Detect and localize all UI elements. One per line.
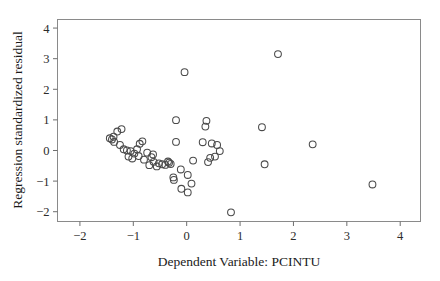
y-tick-label: 3	[43, 52, 49, 66]
x-tick-label: −1	[127, 229, 140, 243]
y-tick-label: −1	[36, 175, 49, 189]
x-axis-title: Dependent Variable: PCINTU	[158, 254, 321, 269]
y-tick-label: 0	[43, 144, 49, 158]
x-tick-label: 4	[397, 229, 404, 243]
y-tick-label: −2	[36, 205, 49, 219]
plot-area-frame	[58, 20, 421, 222]
x-tick-label: −2	[73, 229, 86, 243]
x-tick-label: 1	[237, 229, 243, 243]
y-axis-title: Regression standardized residual	[10, 31, 25, 209]
x-tick-label: 3	[344, 229, 350, 243]
y-tick-label: 1	[43, 113, 49, 127]
y-tick-label: 2	[43, 83, 49, 97]
y-tick-label: 4	[43, 22, 50, 36]
residual-scatter-chart: −2−101234 −2−101234 Dependent Variable: …	[0, 0, 440, 281]
x-tick-label: 2	[290, 229, 296, 243]
x-tick-label: 0	[184, 229, 190, 243]
scatter-plot-figure: −2−101234 −2−101234 Dependent Variable: …	[0, 0, 440, 281]
